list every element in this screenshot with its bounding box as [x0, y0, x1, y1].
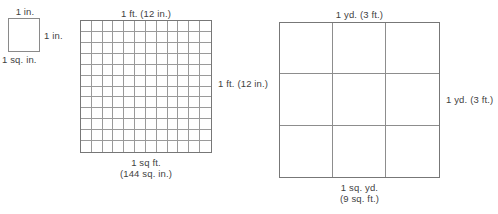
grid-cell: [280, 126, 333, 177]
grid-cell: [333, 126, 386, 177]
grid-cell: [333, 23, 386, 74]
grid-cell: [386, 74, 439, 125]
square-yard-area-line2: (9 sq. ft.): [279, 193, 440, 204]
figure-square-yard: 1 yd. (3 ft.) 1 yd. (3 ft.) 1 sq. yd. (9…: [0, 0, 498, 214]
grid-cell: [386, 126, 439, 177]
square-yard-area-label: 1 sq. yd. (9 sq. ft.): [279, 182, 440, 204]
diagram-canvas: 1 in. 1 in. 1 sq. in. 1 ft. (12 in.) 1 f…: [0, 0, 498, 214]
square-yard-grid: [279, 22, 440, 178]
square-yard-right-label: 1 yd. (3 ft.): [446, 94, 493, 105]
grid-cell: [280, 23, 333, 74]
grid-cell: [333, 74, 386, 125]
grid-cell: [386, 23, 439, 74]
square-yard-area-line1: 1 sq. yd.: [341, 182, 378, 193]
square-yard-top-label: 1 yd. (3 ft.): [279, 9, 440, 20]
grid-cell: [280, 74, 333, 125]
